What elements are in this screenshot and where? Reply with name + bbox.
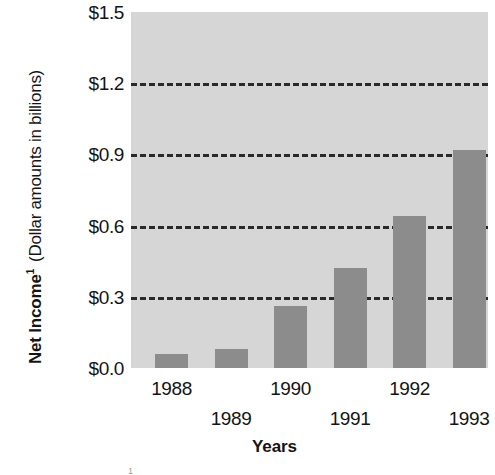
y-axis-title-main: Net Income1 bbox=[26, 269, 46, 364]
x-axis-tick-label: 1992 bbox=[380, 379, 440, 398]
x-axis-title: Years bbox=[0, 437, 495, 457]
bar bbox=[393, 216, 426, 368]
x-axis-tick-label: 1990 bbox=[261, 379, 321, 398]
bar bbox=[274, 306, 307, 368]
plot-area bbox=[131, 12, 488, 368]
bar-chart: Net Income1 (Dollar amounts in billions)… bbox=[0, 0, 495, 475]
gridline bbox=[131, 297, 488, 300]
x-axis-tick-label: 1989 bbox=[201, 409, 261, 428]
gridline bbox=[131, 226, 488, 229]
y-axis-tick-label: $1.2 bbox=[54, 74, 124, 93]
bar bbox=[155, 354, 188, 368]
bar bbox=[215, 349, 248, 368]
y-axis-tick-label: $0.6 bbox=[54, 217, 124, 236]
y-axis-tick-label: $0.0 bbox=[54, 359, 124, 378]
footnote-marker: 1 bbox=[128, 466, 133, 475]
x-axis-tick-label: 1991 bbox=[320, 409, 380, 428]
x-axis-tick-label: 1988 bbox=[142, 379, 202, 398]
x-axis-tick-label: 1993 bbox=[439, 409, 495, 428]
y-axis-tick-label: $1.5 bbox=[54, 3, 124, 22]
x-axis-title-text: Years bbox=[252, 437, 297, 457]
bar bbox=[453, 150, 486, 368]
x-axis-tick-labels: 198819891990199119921993 bbox=[131, 368, 488, 428]
y-axis-tick-label: $0.3 bbox=[54, 288, 124, 307]
bar bbox=[334, 268, 367, 368]
y-axis-tick-label: $0.9 bbox=[54, 145, 124, 164]
gridline bbox=[131, 83, 488, 86]
y-axis-title-text: Net Income bbox=[26, 274, 45, 364]
y-axis-title-subtext: (Dollar amounts in billions) bbox=[26, 70, 46, 262]
gridline bbox=[131, 154, 488, 157]
y-axis-title-superscript: 1 bbox=[25, 269, 36, 274]
y-axis-tick-labels: $1.5$1.2$0.9$0.6$0.3$0.0 bbox=[54, 0, 124, 380]
